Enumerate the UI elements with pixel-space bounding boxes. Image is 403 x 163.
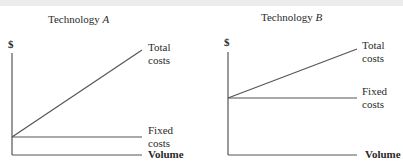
panel-b-x-label: Volume — [365, 148, 401, 160]
cost-diagrams: Technology A $ Total costs Fixed costs V… — [0, 0, 403, 163]
panel-technology-b: Technology B $ Total costs Fixed costs V… — [224, 11, 401, 160]
panel-b-fixed-label-1: Fixed — [362, 85, 388, 97]
panel-a-total-label-2: costs — [148, 54, 170, 66]
panel-technology-a: Technology A $ Total costs Fixed costs V… — [8, 13, 184, 160]
panel-a-total-label-1: Total — [148, 41, 170, 53]
panel-b-y-label: $ — [224, 36, 230, 48]
panel-b-fixed-label-2: costs — [362, 98, 384, 110]
panel-a-total-costs-line — [12, 50, 142, 137]
panel-b-title: Technology B — [261, 11, 323, 23]
panel-a-title: Technology A — [48, 13, 110, 25]
panel-b-total-label-1: Total — [362, 39, 384, 51]
panel-a-x-label: Volume — [148, 148, 184, 160]
panel-b-total-label-2: costs — [362, 52, 384, 64]
panel-a-y-label: $ — [8, 38, 14, 50]
panel-b-total-costs-line — [228, 49, 357, 98]
panel-a-fixed-label-1: Fixed — [148, 124, 174, 136]
